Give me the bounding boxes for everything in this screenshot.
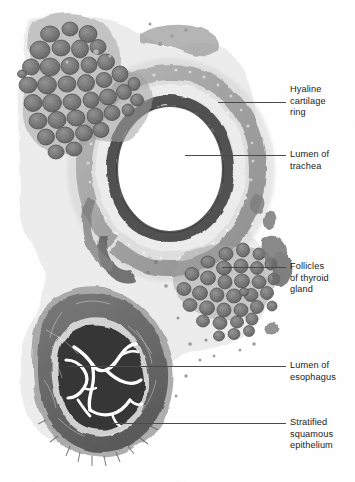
film-grain-overlay <box>0 0 355 482</box>
histology-figure: Hyaline cartilage ring Lumen of trachea … <box>0 0 355 482</box>
leader-line-stratified-squamous-epithelium <box>112 423 286 424</box>
leader-line-lumen-of-trachea <box>185 155 286 156</box>
micrograph-image <box>0 0 355 482</box>
label-stratified-squamous-epithelium: Stratified squamous epithelium <box>290 417 333 452</box>
label-follicles-of-thyroid-gland: Follicles of thyroid gland <box>290 261 329 296</box>
leader-line-hyaline-cartilage-ring <box>218 102 286 103</box>
label-hyaline-cartilage-ring: Hyaline cartilage ring <box>290 84 326 119</box>
label-lumen-of-trachea: Lumen of trachea <box>290 149 329 172</box>
label-lumen-of-esophagus: Lumen of esophagus <box>290 360 336 383</box>
leader-line-lumen-of-esophagus <box>68 366 286 367</box>
leader-line-follicles-of-thyroid-gland <box>222 267 286 268</box>
